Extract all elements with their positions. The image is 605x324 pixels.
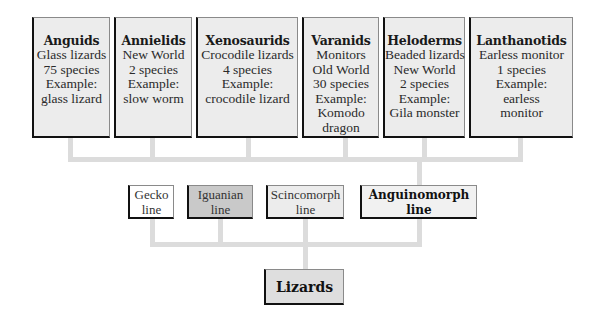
family-line: Example: — [116, 77, 191, 92]
family-line: dragon — [304, 121, 378, 136]
family-title: Varanids — [304, 33, 378, 48]
family-line: monitor — [471, 106, 572, 121]
family-title: Anguids — [34, 33, 109, 48]
lineage-line: line — [268, 203, 343, 218]
family-title: Xenosaurids — [198, 33, 297, 48]
family-line: Example: — [471, 77, 572, 92]
lineage-line: line — [362, 203, 476, 218]
connector-top-bar — [68, 157, 523, 162]
lineage-line: Iguanian — [189, 188, 252, 203]
family-line: New World — [385, 63, 464, 78]
family-line: Example: — [198, 77, 297, 92]
root-title: Lizards — [266, 270, 343, 304]
family-line: Glass lizards — [34, 48, 109, 63]
family-line: crocodile lizard — [198, 92, 297, 107]
root-box-lizards: Lizards — [264, 269, 344, 305]
family-line: Example: — [385, 92, 464, 107]
family-line: 1 species — [471, 63, 572, 78]
lineage-line: Gecko — [130, 188, 173, 203]
family-box-annielids: Annielids New World 2 species Example: s… — [114, 17, 192, 138]
lineage-box-gecko: Gecko line — [128, 185, 174, 219]
family-line: Earless monitor — [471, 48, 572, 63]
family-box-anguids: Anguids Glass lizards 75 species Example… — [32, 17, 110, 138]
family-line: slow worm — [116, 92, 191, 107]
family-title: Heloderms — [385, 33, 464, 48]
family-line: glass lizard — [34, 92, 109, 107]
family-line: Gila monster — [385, 106, 464, 121]
connector-lizards — [303, 242, 308, 270]
lineage-line: line — [130, 203, 173, 218]
family-box-lanthanotids: Lanthanotids Earless monitor 1 species E… — [469, 17, 573, 138]
family-line: 2 species — [116, 63, 191, 78]
family-box-xenosaurids: Xenosaurids Crocodile lizards 4 species … — [196, 17, 298, 138]
lineage-box-anguinomorph: Anguinomorph line — [360, 185, 477, 219]
family-box-heloderms: Heloderms Beaded lizards New World 2 spe… — [383, 17, 465, 138]
family-line: Komodo — [304, 106, 378, 121]
connector-anguinomorph-up — [417, 157, 422, 186]
lineage-line: line — [189, 203, 252, 218]
lineage-box-scincomorph: Scincomorph line — [266, 185, 344, 219]
family-title: Lanthanotids — [471, 33, 572, 48]
family-line: Beaded lizards — [385, 48, 464, 63]
family-line: 4 species — [198, 63, 297, 78]
family-line: 75 species — [34, 63, 109, 78]
family-line: Example: — [34, 77, 109, 92]
lineage-line: Anguinomorph — [362, 188, 476, 203]
lineage-box-iguanian: Iguanian line — [187, 185, 253, 219]
family-title: Annielids — [116, 33, 191, 48]
connector-mid-bar — [150, 242, 422, 247]
family-line: Monitors — [304, 48, 378, 63]
family-line: 30 species — [304, 77, 378, 92]
lineage-line: Scincomorph — [268, 188, 343, 203]
family-line: Crocodile lizards — [198, 48, 297, 63]
family-line: earless — [471, 92, 572, 107]
family-line: New World — [116, 48, 191, 63]
family-line: 2 species — [385, 77, 464, 92]
family-box-varanids: Varanids Monitors Old World 30 species E… — [302, 17, 379, 138]
family-line: Old World — [304, 63, 378, 78]
family-line: Example: — [304, 92, 378, 107]
